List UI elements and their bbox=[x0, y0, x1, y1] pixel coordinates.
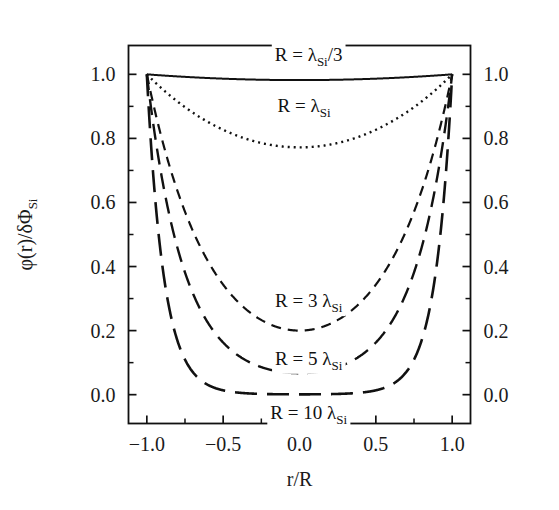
y-axis-tick-label-left: 0.0 bbox=[91, 384, 116, 406]
y-axis-tick-label-right: 0.8 bbox=[484, 127, 509, 149]
x-axis-tick-label: −1.0 bbox=[129, 433, 165, 455]
y-axis-tick-label-right: 1.0 bbox=[484, 63, 509, 85]
x-axis-tick-label: 1.0 bbox=[440, 433, 465, 455]
scientific-line-chart: −1.0−0.50.00.51.00.00.00.20.20.40.40.60.… bbox=[0, 0, 559, 510]
x-axis-tick-label: 0.0 bbox=[287, 433, 312, 455]
x-axis-tick-label: −0.5 bbox=[205, 433, 241, 455]
y-axis-tick-label-right: 0.0 bbox=[484, 384, 509, 406]
chart-background bbox=[0, 0, 559, 510]
y-axis-tick-label-left: 0.4 bbox=[91, 256, 116, 278]
x-axis-tick-label: 0.5 bbox=[363, 433, 388, 455]
y-axis-tick-label-left: 1.0 bbox=[91, 63, 116, 85]
y-axis-tick-label-left: 0.6 bbox=[91, 191, 116, 213]
y-axis-tick-label-right: 0.6 bbox=[484, 191, 509, 213]
figure-container: −1.0−0.50.00.51.00.00.00.20.20.40.40.60.… bbox=[0, 0, 559, 510]
y-axis-tick-label-left: 0.2 bbox=[91, 320, 116, 342]
x-axis-title: r/R bbox=[287, 468, 313, 490]
y-axis-tick-label-left: 0.8 bbox=[91, 127, 116, 149]
y-axis-tick-label-right: 0.2 bbox=[484, 320, 509, 342]
y-axis-tick-label-right: 0.4 bbox=[484, 256, 509, 278]
